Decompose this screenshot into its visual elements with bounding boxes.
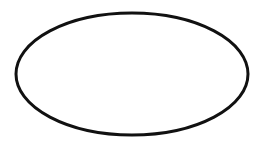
drawing-canvas	[0, 0, 266, 150]
ellipse-shape	[16, 13, 248, 135]
diagram-svg	[0, 0, 266, 150]
